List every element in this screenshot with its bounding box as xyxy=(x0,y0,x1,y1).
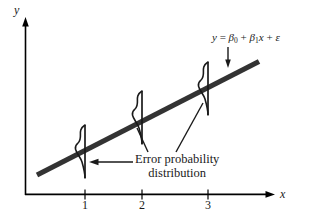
equation-plus-2: + xyxy=(264,31,276,43)
error-distribution-annotation: Error probabilitydistribution xyxy=(135,153,219,179)
annotation-line-2: distribution xyxy=(135,167,219,180)
equation-pointer-arrow xyxy=(225,47,231,68)
equation-epsilon: ε xyxy=(275,31,279,43)
equation-beta1-subscript: 1 xyxy=(255,36,259,45)
y-axis-label: y xyxy=(14,4,19,16)
x-tick-label-2: 2 xyxy=(134,199,150,211)
x-axis-label: x xyxy=(280,188,285,200)
equation-plus-1: + xyxy=(238,31,250,43)
equation-beta0-subscript: 0 xyxy=(234,36,238,45)
annotation-line-1: Error probability xyxy=(135,152,219,166)
regression-diagram: y x 1 2 3 y = β0 + β1x + ε Error probabi… xyxy=(0,0,318,217)
x-axis xyxy=(25,191,275,198)
regression-equation-label: y = β0 + β1x + ε xyxy=(212,32,280,43)
x-tick-label-1: 1 xyxy=(77,199,93,211)
y-axis xyxy=(22,17,29,195)
annotation-arrow-left xyxy=(89,159,133,165)
equation-equals: = xyxy=(217,31,229,43)
annotation-leader-line-3 xyxy=(176,103,203,152)
x-tick-label-3: 3 xyxy=(200,199,216,211)
